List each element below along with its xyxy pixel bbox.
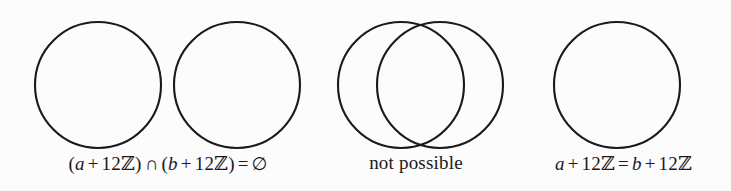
single-circle-diagram — [516, 0, 731, 160]
caption-intersection-symbol: ∩ — [142, 153, 162, 174]
caption-eq-integers-symbol-2: ℤ — [678, 152, 692, 174]
coset-venn-figure: (a+12ℤ)∩(b+12ℤ)=∅ not possible a+12ℤ=b+1… — [0, 0, 731, 191]
caption-not-possible: not possible — [318, 152, 514, 174]
caption-equal-cosets: a+12ℤ=b+12ℤ — [516, 152, 731, 175]
panel-overlapping-cosets: not possible — [318, 0, 514, 191]
caption-empty-set-symbol: ∅ — [252, 153, 268, 174]
caption-modulus-2: 12 — [195, 153, 214, 174]
overlapping-circles-diagram — [318, 0, 514, 160]
caption-variable-a: a — [75, 153, 85, 174]
circle-left-overlap — [338, 22, 464, 148]
caption-integers-symbol-1: ℤ — [121, 152, 135, 174]
caption-variable-b: b — [168, 153, 178, 174]
caption-eq-modulus-2: 12 — [659, 153, 678, 174]
caption-eq-equals-sign: = — [615, 153, 632, 174]
caption-eq-plus-1: + — [565, 153, 582, 174]
panel-disjoint-cosets: (a+12ℤ)∩(b+12ℤ)=∅ — [0, 0, 336, 191]
caption-plus-2: + — [178, 153, 195, 174]
caption-eq-integers-symbol-1: ℤ — [601, 152, 615, 174]
circle-a-coset — [35, 22, 161, 148]
caption-eq-variable-b: b — [632, 153, 642, 174]
caption-eq-modulus-1: 12 — [582, 153, 601, 174]
caption-disjoint-cosets: (a+12ℤ)∩(b+12ℤ)=∅ — [0, 152, 336, 175]
circle-coincident-cosets — [554, 22, 680, 148]
disjoint-circles-diagram — [0, 0, 336, 160]
caption-eq-variable-a: a — [555, 153, 565, 174]
panel-equal-cosets: a+12ℤ=b+12ℤ — [516, 0, 731, 191]
caption-close-paren-1: ) — [135, 153, 142, 174]
caption-plus-1: + — [85, 153, 102, 174]
caption-equals-sign: = — [235, 153, 252, 174]
caption-eq-plus-2: + — [642, 153, 659, 174]
circle-right-overlap — [377, 22, 503, 148]
circle-b-coset — [174, 22, 300, 148]
caption-modulus-1: 12 — [102, 153, 121, 174]
caption-integers-symbol-2: ℤ — [214, 152, 228, 174]
caption-close-paren-2: ) — [228, 153, 235, 174]
